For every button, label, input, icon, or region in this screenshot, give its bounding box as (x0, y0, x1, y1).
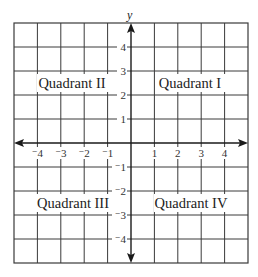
y-axis-label: y (126, 8, 133, 22)
x-tick-label: ⁻1 (102, 147, 113, 159)
quadrant-ii-label: Quadrant II (38, 75, 105, 91)
y-tick-label: ⁻4 (115, 233, 127, 245)
quadrant-iv-label: Quadrant IV (155, 195, 228, 211)
x-tick-label: 2 (175, 147, 181, 159)
x-tick-label: ⁻2 (79, 147, 90, 159)
x-tick-label: ⁻4 (32, 147, 44, 159)
y-tick-label: ⁻2 (115, 185, 126, 197)
y-tick-label: 2 (121, 89, 127, 101)
quadrant-i-label: Quadrant I (159, 75, 222, 91)
coordinate-plane: y 4 3 2 1 ⁻1 ⁻2 ⁻3 ⁻4 ⁻4 ⁻3 ⁻2 ⁻1 1 2 3 … (0, 0, 258, 277)
y-tick-label: 4 (121, 41, 127, 53)
y-tick-label: ⁻3 (115, 209, 127, 221)
x-tick-label: ⁻3 (55, 147, 67, 159)
y-tick-label: 1 (121, 113, 127, 125)
y-tick-label: 3 (121, 65, 127, 77)
x-tick-label: 4 (222, 147, 228, 159)
quadrant-iii-label: Quadrant III (37, 195, 109, 211)
x-tick-labels: ⁻4 ⁻3 ⁻2 ⁻1 1 2 3 4 (32, 147, 228, 159)
x-tick-label: 1 (152, 147, 158, 159)
y-tick-label: ⁻1 (115, 161, 126, 173)
x-tick-label: 3 (198, 147, 204, 159)
